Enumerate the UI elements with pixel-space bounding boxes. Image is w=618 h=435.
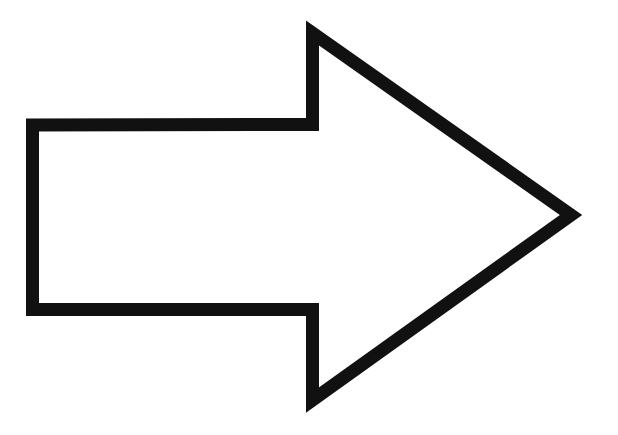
- arrow-diagram: [0, 0, 618, 435]
